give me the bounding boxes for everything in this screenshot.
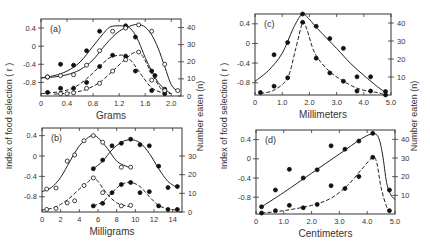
open-data-point xyxy=(54,186,58,190)
open-data-point xyxy=(101,140,105,144)
y-right-tick-label: 40 xyxy=(187,23,195,32)
open-data-point xyxy=(176,89,180,93)
open-data-point xyxy=(137,23,141,27)
x-tick-label: 1.2 xyxy=(114,99,124,108)
x-tick-label: 1.6 xyxy=(140,99,150,108)
x-tick-label: 0.8 xyxy=(88,99,98,108)
series-curve xyxy=(41,26,171,94)
filled-data-point xyxy=(314,56,318,60)
open-data-point xyxy=(73,199,77,203)
open-data-point xyxy=(85,63,89,67)
open-data-point xyxy=(129,203,133,207)
filled-data-point xyxy=(286,76,290,80)
filled-data-point xyxy=(287,203,291,207)
y-left-tick-label: -0.4 xyxy=(237,59,250,68)
open-data-point xyxy=(163,89,167,93)
x-tick-label: 8 xyxy=(115,215,119,224)
filled-data-point xyxy=(343,187,347,191)
open-data-point xyxy=(59,92,63,96)
filled-data-point xyxy=(110,144,114,148)
y-right-tick-label: 10 xyxy=(401,191,409,200)
filled-data-point xyxy=(301,20,305,24)
y-left-tick-label: -0.8 xyxy=(24,192,37,201)
filled-data-point xyxy=(111,53,115,57)
x-tick-label: 0 xyxy=(40,215,44,224)
x-tick-label: 5.0 xyxy=(386,98,396,107)
filled-data-point xyxy=(328,71,332,75)
open-data-point xyxy=(85,86,89,90)
filled-data-point xyxy=(273,188,277,192)
filled-data-point xyxy=(341,46,345,50)
filled-data-point xyxy=(258,91,262,95)
filled-data-point xyxy=(343,147,347,151)
y-right-tick-label: 30 xyxy=(401,154,409,163)
filled-data-point xyxy=(286,40,290,44)
y-right-tick-label: 0 xyxy=(188,208,192,217)
filled-data-point xyxy=(85,49,89,53)
filled-data-point xyxy=(133,35,137,39)
filled-data-point xyxy=(369,75,373,79)
open-data-point xyxy=(119,204,123,208)
open-data-point xyxy=(91,134,95,138)
open-data-point xyxy=(73,153,77,157)
x-tick-label: 3.0 xyxy=(334,217,344,226)
y-left-tick-label: 0 xyxy=(32,42,36,51)
filled-data-point xyxy=(355,89,359,93)
y-right-tick-label: 20 xyxy=(187,57,195,66)
series-curve xyxy=(42,177,133,210)
filled-data-point xyxy=(301,12,305,16)
filled-data-point xyxy=(138,143,142,147)
filled-data-point xyxy=(315,202,319,206)
filled-data-point xyxy=(175,185,179,189)
filled-data-point xyxy=(314,24,318,28)
filled-data-point xyxy=(147,144,151,148)
filled-data-point xyxy=(329,144,333,148)
x-tick-label: 0 xyxy=(39,99,43,108)
x-tick-label: 6 xyxy=(96,215,100,224)
figure: 00.40.81.21.62.00.40-0.4-0.8010203040Gra… xyxy=(0,0,430,250)
open-data-point xyxy=(91,176,95,180)
filled-data-point xyxy=(91,167,95,171)
filled-data-point xyxy=(119,183,123,187)
y-right-tick-label: 40 xyxy=(397,19,405,28)
filled-data-point xyxy=(133,69,137,73)
x-tick-label: 4.0 xyxy=(362,217,372,226)
open-data-point xyxy=(59,74,63,78)
open-data-point xyxy=(45,207,49,211)
filled-data-point xyxy=(355,75,359,79)
open-data-point xyxy=(119,165,123,169)
filled-data-point xyxy=(91,204,95,208)
y-left-tick-label: 0.4 xyxy=(26,24,36,33)
y-right-tick-label: 20 xyxy=(401,172,409,181)
series-curve xyxy=(262,134,395,207)
right-ylabel-right-pair: Number eaten (n) xyxy=(409,81,419,152)
filled-data-point xyxy=(287,167,291,171)
filled-data-point xyxy=(315,168,319,172)
open-data-point xyxy=(54,206,58,210)
y-left-tick-label: 0.4 xyxy=(27,131,37,140)
x-tick-label: 5.0 xyxy=(390,217,400,226)
open-data-point xyxy=(137,50,141,54)
filled-data-point xyxy=(129,180,133,184)
filled-data-point xyxy=(72,86,76,90)
filled-data-point xyxy=(357,139,361,143)
filled-data-point xyxy=(341,79,345,83)
filled-data-point xyxy=(110,191,114,195)
filled-data-point xyxy=(272,53,276,57)
filled-data-point xyxy=(260,205,264,209)
x-tick-label: 2.0 xyxy=(306,217,316,226)
open-data-point xyxy=(65,92,69,96)
filled-data-point xyxy=(166,186,170,190)
y-left-tick-label: -0.4 xyxy=(238,174,251,183)
panel-label: (b) xyxy=(51,133,62,143)
filled-data-point xyxy=(138,191,142,195)
panel-d: 01.02.03.04.05.00.40-0.4-0.810203040Cent… xyxy=(238,130,409,239)
y-right-tick-label: 30 xyxy=(397,37,405,46)
x-axis-label: Millimeters xyxy=(299,109,347,120)
open-data-point xyxy=(98,49,102,53)
y-left-tick-label: -0.4 xyxy=(24,172,37,181)
filled-data-point xyxy=(157,204,161,208)
filled-data-point xyxy=(129,137,133,141)
y-left-tick-label: 0 xyxy=(246,39,250,48)
open-data-point xyxy=(46,75,50,79)
